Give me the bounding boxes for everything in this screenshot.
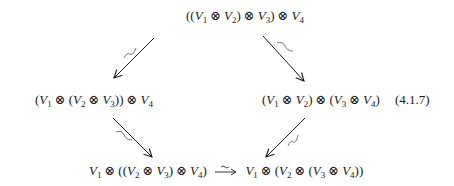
arrow-left-to-bottom (113, 118, 152, 157)
node-bottom-right: V1⊗(V2⊗(V3⊗V4)) (245, 163, 363, 178)
tilde-iso-icon (221, 166, 229, 168)
arrow-top-to-right (263, 36, 304, 81)
tilde-iso-icon (124, 48, 136, 58)
tilde-iso-icon (277, 42, 293, 51)
arrow-right-to-bottom (266, 118, 305, 157)
tilde-iso-icon (288, 135, 298, 146)
arrow-top-to-left (114, 38, 154, 78)
node-left: (V1⊗(V2⊗V3))⊗V4 (35, 92, 153, 108)
node-bottom-left: V1⊗((V2⊗V3)⊗V4) (89, 163, 207, 178)
tilde-iso-icon (116, 131, 132, 140)
node-bottom-row: V1⊗((V2⊗V3)⊗V4) V1⊗(V2⊗(V3⊗V4)) (89, 163, 363, 179)
node-right: (V1⊗V2)⊗(V3⊗V4) (262, 92, 380, 108)
iso-arrow-bottom (214, 164, 238, 176)
node-top: ((V1⊗V2)⊗V3)⊗V4 (186, 8, 304, 24)
equation-label: (4.1.7) (395, 92, 430, 108)
